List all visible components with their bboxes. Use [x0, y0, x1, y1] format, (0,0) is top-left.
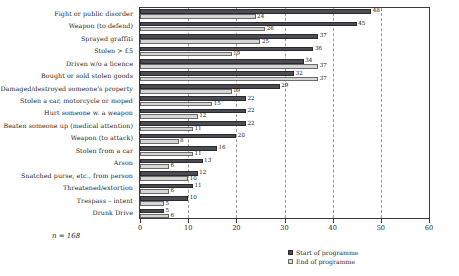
bar-value-label: 16 — [219, 145, 226, 151]
bar-end-of-programme — [140, 152, 193, 157]
category-label: Drunk Drive — [0, 207, 136, 219]
x-axis-tick-label: 50 — [377, 224, 385, 232]
x-axis-tick-label: 60 — [425, 224, 433, 232]
bar-value-label: 12 — [199, 170, 206, 176]
x-axis-tick-label: 40 — [328, 224, 336, 232]
bar-row: 3619 — [140, 45, 429, 57]
bar-end-of-programme — [140, 52, 232, 57]
category-label: Sprayed graffiti — [0, 32, 136, 44]
bar-value-label: 48 — [373, 8, 380, 14]
bar-start-of-programme — [140, 96, 246, 101]
bar-value-label: 24 — [257, 14, 264, 20]
bar-value-label: 36 — [315, 46, 322, 52]
legend-label-start: Start of programme — [296, 249, 358, 256]
bar-row: 2212 — [140, 108, 429, 120]
y-axis-category-labels: Fight or public disorderWeapon (to defen… — [0, 7, 136, 219]
bar-end-of-programme — [140, 139, 179, 144]
bar-row: 4526 — [140, 20, 429, 32]
x-axis-tick — [333, 219, 334, 223]
bar-value-label: 10 — [190, 195, 197, 201]
x-axis-tick-label: 0 — [138, 224, 142, 232]
bar-row: 105 — [140, 195, 429, 207]
bar-end-of-programme — [140, 127, 193, 132]
sample-size-annotation: n = 168 — [52, 232, 80, 240]
bar-value-label: 32 — [296, 71, 303, 77]
legend-swatch-end-icon — [288, 259, 293, 264]
x-axis-tick — [188, 219, 189, 223]
bar-rows: 4824452637253619343732372919221522122211… — [140, 8, 429, 218]
bar-start-of-programme — [140, 196, 188, 201]
category-label: Arson — [0, 157, 136, 169]
bar-value-label: 26 — [267, 26, 274, 32]
x-axis-tick — [285, 219, 286, 223]
bar-end-of-programme — [140, 164, 169, 169]
legend: Start of programme End of programme — [288, 248, 358, 266]
bar-row: 2215 — [140, 95, 429, 107]
bar-row: 3725 — [140, 33, 429, 45]
bar-row: 2211 — [140, 120, 429, 132]
bar-row: 3237 — [140, 70, 429, 82]
bar-end-of-programme — [140, 89, 232, 94]
bar-value-label: 12 — [199, 113, 206, 119]
bar-start-of-programme — [140, 59, 304, 64]
bar-row: 116 — [140, 183, 429, 195]
bar-start-of-programme — [140, 84, 280, 89]
bar-end-of-programme — [140, 214, 169, 219]
bar-end-of-programme — [140, 189, 169, 194]
bar-value-label: 11 — [194, 151, 201, 157]
legend-swatch-start-icon — [288, 250, 293, 255]
category-label: Stolen from a car — [0, 144, 136, 156]
bar-value-label: 5 — [166, 208, 170, 214]
category-label: Damaged/destroyed someone's property — [0, 82, 136, 94]
bar-end-of-programme — [140, 14, 256, 19]
bar-value-label: 6 — [170, 188, 174, 194]
legend-item-start: Start of programme — [288, 248, 358, 256]
bar-value-label: 10 — [190, 176, 197, 182]
bar-value-label: 37 — [320, 76, 327, 82]
bar-start-of-programme — [140, 109, 246, 114]
bar-value-label: 45 — [358, 21, 365, 27]
bar-value-label: 13 — [204, 158, 211, 164]
plot-area: 4824452637253619343732372919221522122211… — [139, 7, 430, 219]
bar-start-of-programme — [140, 9, 371, 14]
chart-root: Fight or public disorderWeapon (to defen… — [0, 0, 459, 276]
bar-value-label: 15 — [214, 101, 221, 107]
category-label: Trespass – intent — [0, 194, 136, 206]
category-label: Threatened/extortion — [0, 182, 136, 194]
bar-value-label: 22 — [247, 108, 254, 114]
bar-value-label: 22 — [247, 96, 254, 102]
bar-value-label: 5 — [166, 201, 170, 207]
bar-value-label: 20 — [238, 133, 245, 139]
bar-value-label: 8 — [180, 138, 184, 144]
bar-end-of-programme — [140, 201, 164, 206]
category-label: Bought or sold stolen goods — [0, 69, 136, 81]
bar-value-label: 11 — [194, 126, 201, 132]
category-label: Snatched purse, etc., from person — [0, 169, 136, 181]
bar-value-label: 25 — [262, 39, 269, 45]
x-axis-tick — [140, 219, 141, 223]
bar-end-of-programme — [140, 77, 318, 82]
category-label: Fight or public disorder — [0, 7, 136, 19]
category-label: Stolen a car, motorcycle or moped — [0, 94, 136, 106]
bar-end-of-programme — [140, 102, 212, 107]
bar-start-of-programme — [140, 184, 193, 189]
category-label: Beaten someone up (medical attention) — [0, 119, 136, 131]
x-axis-tick-label: 30 — [280, 224, 288, 232]
bar-end-of-programme — [140, 64, 318, 69]
bar-end-of-programme — [140, 39, 260, 44]
bar-start-of-programme — [140, 146, 217, 151]
bar-row: 4824 — [140, 8, 429, 20]
bar-row: 3437 — [140, 58, 429, 70]
legend-label-end: End of programme — [296, 258, 355, 265]
bar-start-of-programme — [140, 47, 313, 52]
bar-value-label: 29 — [281, 83, 288, 89]
x-axis-tick-labels: 0102030405060 — [139, 224, 430, 236]
bar-start-of-programme — [140, 71, 294, 76]
x-axis-tick — [381, 219, 382, 223]
x-axis-tick-label: 10 — [184, 224, 192, 232]
bar-row: 208 — [140, 133, 429, 145]
bar-value-label: 37 — [320, 63, 327, 69]
category-label: Hurt someone w. a weapon — [0, 107, 136, 119]
category-label: Weapon (to attack) — [0, 132, 136, 144]
bar-start-of-programme — [140, 209, 164, 214]
